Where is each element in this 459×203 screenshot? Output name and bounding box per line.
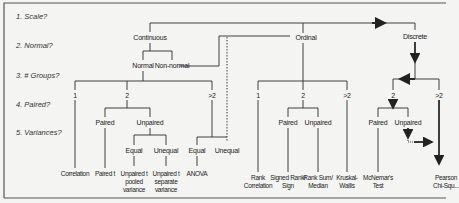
question-normal: 2. Normal? <box>16 41 53 50</box>
node-ord-paired: Paired <box>278 119 297 127</box>
leaf-unpaired-t-pooled: Unpaired tpooledvariance <box>121 170 148 194</box>
node-ord-groups-1: 1 <box>256 92 260 100</box>
question-paired: 4. Paired? <box>16 100 50 109</box>
node-ord-groups-2: 2 <box>301 92 305 100</box>
node-cont-equal: Equal <box>126 147 143 155</box>
leaf-rank-sum: Rank Sum/Median <box>303 174 332 190</box>
node-non-normal: Non-normal <box>155 62 190 70</box>
node-ord-unpaired: Unpaired <box>305 119 332 127</box>
leaf-kruskal-wallis: Kruskal-Wallis <box>336 174 357 190</box>
leaf-unpaired-t-separate: Unpaired tseparatevariance <box>153 170 180 194</box>
leaf-anova: ANOVA <box>187 170 208 178</box>
node-cont-unequal: Unequal <box>154 147 179 155</box>
node-cont-groups-gt2: >2 <box>208 92 216 100</box>
question-variances: 5. Variances? <box>16 128 62 137</box>
node-disc-paired: Paired <box>368 119 387 127</box>
node-anova-unequal: Unequal <box>215 147 240 155</box>
node-disc-groups-2: 2 <box>391 92 395 100</box>
node-ordinal: Ordinal <box>295 34 316 42</box>
leaf-signed-rank: Signed Rank/Sign <box>270 174 305 190</box>
node-disc-unpaired: Unpaired <box>395 119 422 127</box>
node-cont-paired: Paired <box>95 119 114 127</box>
leaf-mcnemar: McNemar'sTest <box>363 174 393 190</box>
node-normal: Normal <box>132 62 153 70</box>
node-disc-groups-gt2: >2 <box>435 92 443 100</box>
node-cont-groups-2: 2 <box>125 92 129 100</box>
node-cont-unpaired: Unpaired <box>137 119 164 127</box>
node-anova-equal: Equal <box>189 147 206 155</box>
node-discrete: Discrete <box>403 33 427 41</box>
node-ord-groups-gt2: >2 <box>343 92 351 100</box>
question-scale: 1. Scale? <box>16 12 47 21</box>
node-continuous: Continuous <box>133 34 166 42</box>
node-cont-groups-1: 1 <box>73 92 77 100</box>
question-groups: 3. # Groups? <box>16 71 59 80</box>
leaf-correlation: Correlation <box>61 170 90 178</box>
leaf-rank-correlation: RankCorrelation <box>244 174 273 190</box>
leaf-paired-t: Paired t <box>95 170 115 178</box>
leaf-pearson-chi-square: PearsonChi-Squ... <box>433 174 459 190</box>
